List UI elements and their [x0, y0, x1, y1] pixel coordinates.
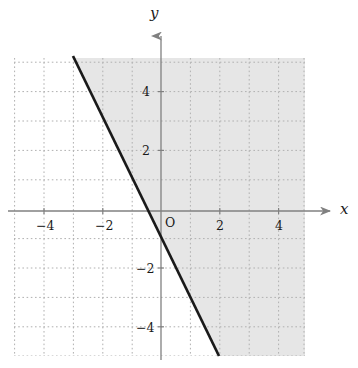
x-tick-label-4: 4: [275, 220, 283, 233]
y-tick-label-4: 4: [142, 86, 150, 99]
shaded-inequality-region: [74, 58, 305, 356]
origin-label: O: [165, 217, 175, 230]
x-tick-label-minus2: −2: [95, 220, 113, 233]
x-tick-label-minus4: −4: [36, 220, 54, 233]
coordinate-plane-svg: [0, 0, 358, 368]
y-tick-label-minus2: −2: [136, 263, 154, 276]
x-tick-label-2: 2: [216, 220, 224, 233]
y-tick-label-2: 2: [142, 145, 150, 158]
y-tick-label-minus4: −4: [136, 322, 154, 335]
x-axis-label: x: [340, 202, 348, 217]
y-axis-label: y: [150, 6, 158, 21]
graph-figure: y x O −4 −2 2 4 4 2 −2 −4: [0, 0, 358, 368]
